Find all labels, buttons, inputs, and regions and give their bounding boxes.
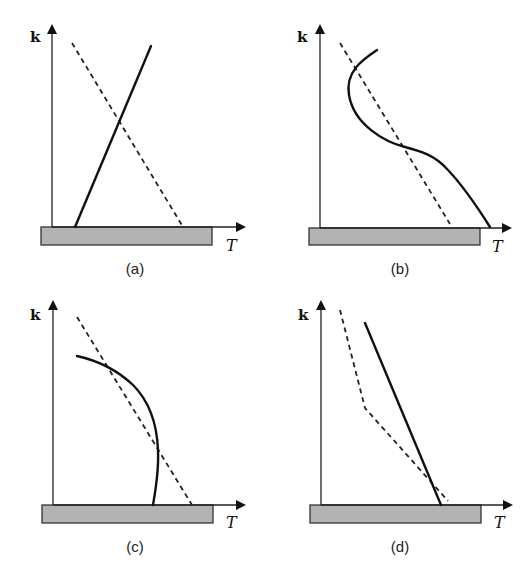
wall-rect [42, 505, 213, 523]
y-axis-label: k [30, 28, 41, 46]
panel-b: k T (b) [297, 26, 510, 277]
wall-rect [310, 505, 481, 523]
x-axis-label: T [494, 513, 506, 532]
panel-label: (c) [126, 538, 144, 555]
y-axis-label: k [298, 306, 309, 324]
dashed-curve [72, 43, 183, 227]
x-axis-label: T [226, 513, 238, 532]
solid-curve [77, 356, 158, 505]
panel-d: k T (d) [298, 302, 511, 555]
solid-curve [365, 323, 441, 505]
x-axis-label: T [226, 236, 238, 255]
panel-c: k T (c) [30, 302, 244, 555]
figure-canvas: k T (a) k T (b) k T (c) k T (d) [0, 0, 531, 574]
solid-curve [348, 50, 490, 227]
solid-curve [75, 46, 151, 227]
dashed-curve [340, 310, 448, 501]
y-axis-label: k [30, 306, 41, 324]
panel-a: k T (a) [30, 26, 244, 277]
x-axis-label: T [492, 237, 504, 256]
dashed-curve [340, 43, 450, 224]
dashed-curve [77, 317, 192, 505]
panel-label: (a) [126, 260, 144, 277]
wall-rect [41, 227, 212, 245]
panel-label: (b) [391, 260, 409, 277]
wall-rect [309, 228, 480, 245]
panel-label: (d) [391, 538, 409, 555]
y-axis-label: k [297, 28, 308, 46]
